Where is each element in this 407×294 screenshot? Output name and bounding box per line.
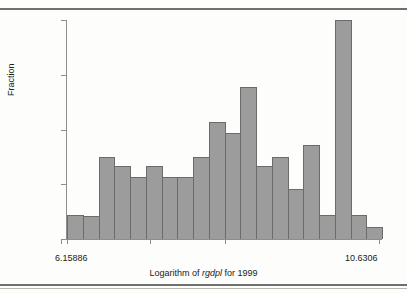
histogram-bar bbox=[83, 216, 100, 239]
x-axis-title-pre: Logarithm of bbox=[149, 268, 202, 278]
bottom-divider-2 bbox=[0, 288, 407, 289]
x-axis-tick-label-max: 10.6306 bbox=[345, 253, 378, 263]
x-axis-tick bbox=[225, 239, 226, 244]
histogram-bar bbox=[146, 166, 163, 239]
histogram-bar bbox=[177, 177, 194, 239]
histogram-bar bbox=[366, 227, 383, 239]
x-axis-title-variable: rgdpl bbox=[202, 268, 222, 278]
x-axis-tick bbox=[379, 239, 380, 244]
histogram-bar bbox=[162, 177, 179, 239]
histogram-bar bbox=[240, 87, 257, 239]
histogram-bar bbox=[303, 145, 320, 239]
x-axis-line bbox=[61, 239, 382, 240]
histogram-bar bbox=[99, 157, 116, 239]
x-axis-tick bbox=[150, 239, 151, 244]
y-axis-title: Fraction bbox=[6, 63, 16, 96]
histogram-bar bbox=[209, 122, 226, 239]
histogram-bar bbox=[114, 166, 131, 239]
y-axis-tick bbox=[61, 130, 66, 131]
y-axis-tick bbox=[61, 20, 66, 21]
histogram-bar bbox=[67, 215, 84, 239]
x-axis-tick bbox=[67, 239, 68, 244]
x-axis-tick bbox=[61, 239, 62, 244]
histogram-bar bbox=[351, 215, 368, 239]
histogram-figure: 0.144 0 Fraction 6.15886 10.6306 Logarit… bbox=[0, 0, 407, 294]
histogram-bar bbox=[193, 157, 210, 239]
x-axis-title: Logarithm of rgdpl for 1999 bbox=[0, 268, 407, 278]
histogram-bar bbox=[319, 215, 336, 239]
histogram-bar bbox=[256, 166, 273, 239]
x-axis-tick-label-min: 6.15886 bbox=[55, 253, 88, 263]
plot-area bbox=[66, 20, 382, 239]
bottom-divider bbox=[0, 284, 407, 286]
histogram-bar bbox=[288, 189, 305, 239]
histogram-bars bbox=[67, 20, 382, 239]
histogram-bar bbox=[272, 157, 289, 239]
histogram-bar bbox=[130, 177, 147, 239]
y-axis-tick bbox=[61, 75, 66, 76]
x-axis-title-post: for 1999 bbox=[222, 268, 258, 278]
histogram-bar bbox=[225, 133, 242, 239]
histogram-bar bbox=[335, 20, 352, 239]
top-divider bbox=[0, 8, 407, 10]
y-axis-tick bbox=[61, 184, 66, 185]
